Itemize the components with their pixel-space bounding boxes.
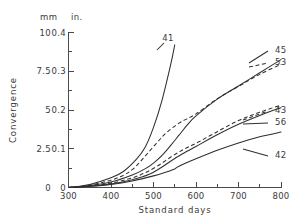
svg-text:10: 10	[40, 28, 51, 38]
svg-text:0: 0	[45, 183, 51, 193]
svg-text:0.3: 0.3	[52, 66, 66, 76]
curve-label-41: 41	[162, 33, 173, 43]
x-axis-title: Standard days	[138, 205, 211, 215]
mm-unit-label: mm	[40, 12, 57, 22]
curve-41	[69, 45, 175, 188]
svg-text:0.1: 0.1	[52, 144, 66, 154]
y-axis-major-ticks	[69, 33, 75, 188]
curve-label-56: 56	[275, 117, 286, 127]
svg-text:7.5: 7.5	[37, 66, 51, 76]
curve-label-43: 43	[275, 105, 286, 115]
curve-label-42: 42	[275, 150, 286, 160]
curve-label-45: 45	[275, 45, 286, 55]
svg-text:400: 400	[102, 191, 119, 201]
svg-text:700: 700	[230, 191, 247, 201]
curve-56	[69, 108, 282, 188]
in-unit-label: in.	[71, 12, 83, 22]
x-axis-tick-labels: 300 400 500 600 700 800	[60, 191, 290, 201]
svg-text:600: 600	[187, 191, 204, 201]
curve-label-53: 53	[275, 57, 286, 67]
data-curves-group	[69, 45, 282, 188]
chart-plot-area: mm in. 10 7.5 5 2.5 0 0.4 0.3 0.2 0.1 0 …	[0, 0, 293, 224]
svg-text:300: 300	[60, 191, 77, 201]
convergence-chart-figure: mm in. 10 7.5 5 2.5 0 0.4 0.3 0.2 0.1 0 …	[0, 0, 293, 224]
svg-text:2.5: 2.5	[37, 144, 51, 154]
svg-text:500: 500	[145, 191, 162, 201]
svg-text:5: 5	[45, 105, 51, 115]
svg-text:0.2: 0.2	[52, 105, 66, 115]
svg-text:800: 800	[272, 191, 289, 201]
svg-text:0.4: 0.4	[52, 28, 66, 38]
x-axis-minor-ticks	[90, 184, 260, 188]
y-axis-mm-tick-labels: 10 7.5 5 2.5 0	[37, 28, 51, 193]
y-axis-in-tick-labels: 0.4 0.3 0.2 0.1 0	[52, 28, 66, 193]
y-axis-title: Convergence	[8, 77, 18, 143]
curve-end-labels: 41 45 53 43 56 42	[162, 33, 286, 160]
